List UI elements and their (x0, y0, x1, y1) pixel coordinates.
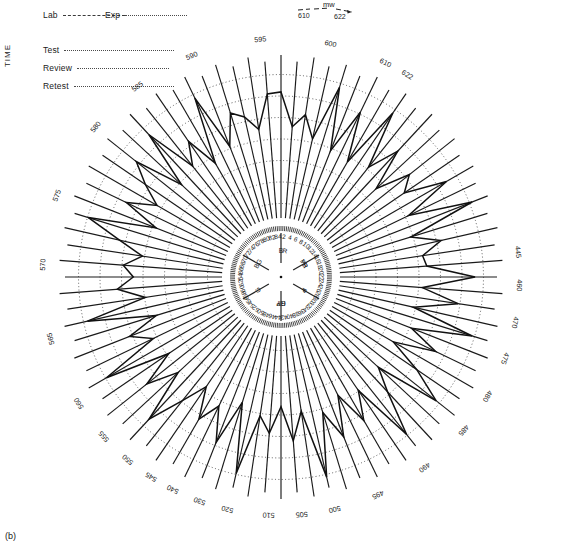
spoke-number-label: 2 (282, 233, 287, 240)
wavelength-label: 510 (262, 510, 274, 520)
wavelength-label: 495 (371, 488, 386, 501)
wavelength-label: 500 (328, 504, 342, 515)
polar-chart-figure: Lab Exp Test Review Retest TIME mw 610 6… (0, 0, 563, 549)
wavelength-label: 555 (96, 429, 111, 444)
wavelength-label: 560 (72, 396, 86, 411)
wavelength-label: 470 (510, 316, 521, 329)
spoke-number-label: 84 (274, 233, 282, 241)
wavelength-label: 530 (192, 495, 206, 508)
wavelength-label: 565 (45, 332, 57, 346)
wavelength-label: 595 (254, 34, 267, 44)
wavelength-label: 600 (324, 38, 338, 49)
wavelength-label: 490 (417, 460, 432, 474)
wavelength-label: 475 (499, 351, 512, 365)
wavelength-label: 520 (220, 504, 234, 515)
wavelength-label: 460 (515, 279, 524, 291)
wavelength-label: 622 (400, 68, 415, 82)
wavelength-label: 545 (144, 470, 159, 484)
hue-label: B (279, 247, 284, 254)
hue-label: PB (299, 258, 310, 270)
wavelength-label: 480 (481, 389, 495, 404)
wavelength-label: 550 (120, 452, 135, 467)
hue-label: G (254, 286, 263, 294)
wavelength-label: 445 (513, 246, 523, 259)
wavelength-label: 590 (184, 49, 198, 62)
wavelength-label: 585 (130, 79, 145, 93)
wavelength-label: 570 (38, 258, 48, 270)
spoke-number-label: 4 (288, 233, 293, 241)
hue-label: RP (276, 300, 286, 307)
wavelength-label: 575 (51, 188, 64, 202)
hue-label: BG (252, 258, 263, 270)
wavelength-label: 580 (88, 119, 103, 134)
wavelength-label: 540 (165, 483, 180, 496)
wavelength-label: 485 (456, 423, 471, 438)
wavelength-label: 505 (295, 510, 308, 520)
wavelength-label: 610 (378, 56, 393, 69)
polar-plot: 2468101214161820222426283032343638404244… (0, 0, 563, 549)
center-dot (280, 276, 283, 279)
